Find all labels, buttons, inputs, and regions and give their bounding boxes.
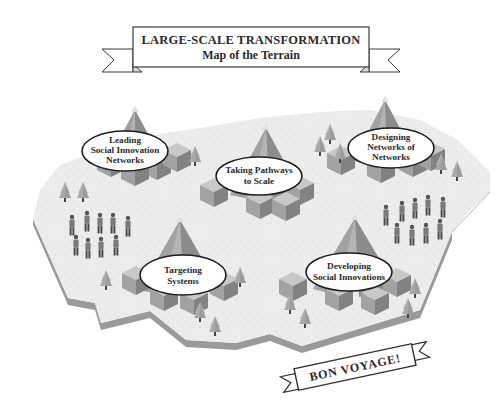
- label-targeting[interactable]: Targeting Systems: [140, 255, 226, 295]
- terrain-map-illustration: Leading Social Innovation Networks Takin…: [0, 0, 502, 405]
- label-leading-line1: Leading: [109, 135, 142, 145]
- label-pathways-line2: to Scale: [244, 176, 274, 186]
- label-targeting-line2: Systems: [167, 276, 199, 286]
- label-designing-line2: Networks of: [367, 142, 416, 152]
- label-developing-line1: Developing: [327, 261, 371, 271]
- label-designing[interactable]: Designing Networks of Networks: [348, 128, 434, 168]
- label-designing-line3: Networks: [372, 152, 410, 162]
- label-pathways[interactable]: Taking Pathways to Scale: [216, 157, 302, 195]
- title-banner: LARGE-SCALE TRANSFORMATION Map of the Te…: [102, 27, 400, 72]
- label-leading[interactable]: Leading Social Innovation Networks: [82, 131, 168, 171]
- title-line1: LARGE-SCALE TRANSFORMATION: [142, 33, 361, 47]
- label-targeting-line1: Targeting: [164, 265, 202, 275]
- label-developing-line2: Social Innovations: [313, 272, 386, 282]
- label-developing[interactable]: Developing Social Innovations: [306, 253, 392, 291]
- label-designing-line1: Designing: [372, 132, 411, 142]
- label-leading-line3: Networks: [106, 155, 144, 165]
- title-line2: Map of the Terrain: [202, 48, 300, 62]
- label-leading-line2: Social Innovation: [91, 145, 160, 155]
- label-pathways-line1: Taking Pathways: [225, 165, 293, 175]
